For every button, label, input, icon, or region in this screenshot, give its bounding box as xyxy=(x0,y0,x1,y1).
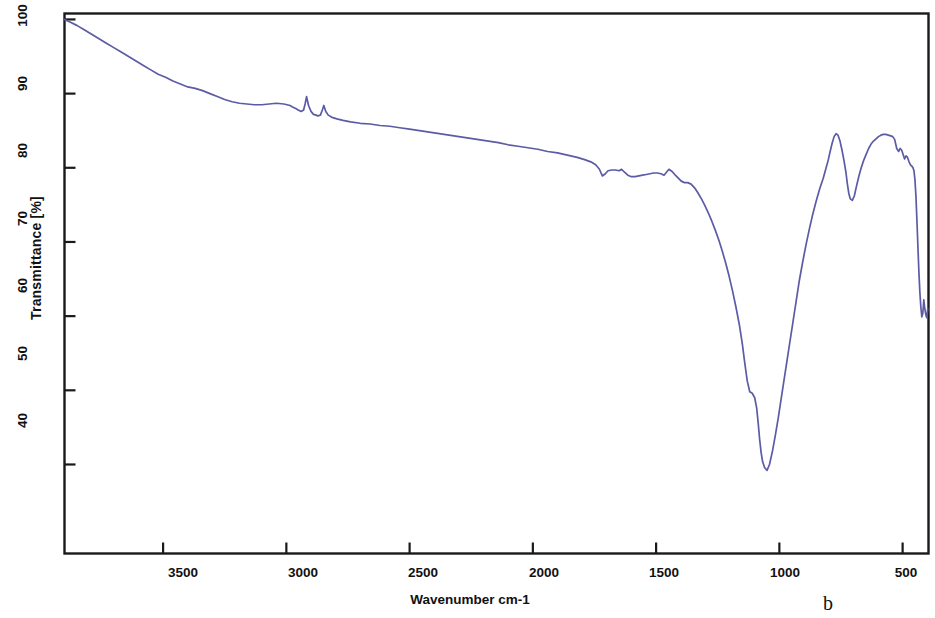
y-tick-marks xyxy=(65,19,76,464)
x-tick-marks xyxy=(163,543,903,554)
ftir-spectrum-figure: Transmittance [%] Wavenumber cm-1 b 100 … xyxy=(0,0,935,618)
spectrum-curve xyxy=(65,19,928,470)
spectrum-plot xyxy=(0,0,935,618)
